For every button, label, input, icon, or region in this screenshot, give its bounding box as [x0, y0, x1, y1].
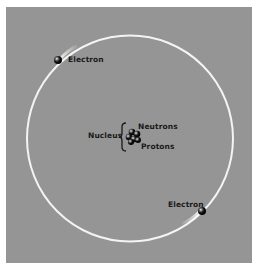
electron-label-top: Electron: [68, 56, 104, 64]
atom-diagram: [0, 0, 262, 270]
electron-icon: [54, 56, 62, 64]
nucleus-icon: [126, 129, 141, 145]
electron-trail-bottom: [181, 211, 200, 226]
nucleus-label: Nucleus: [88, 132, 122, 140]
neutrons-label: Neutrons: [138, 123, 178, 131]
electron-label-bottom: Electron: [168, 201, 204, 209]
protons-label: Protons: [141, 143, 175, 151]
